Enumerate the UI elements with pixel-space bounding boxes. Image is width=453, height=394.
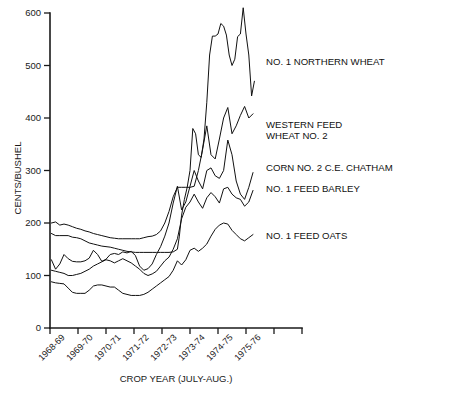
x-axis-tick-labels: 1968-691969-701970-711971-721972-731973-… bbox=[36, 332, 262, 362]
x-tick-label: 1972-73 bbox=[148, 332, 178, 362]
series-label: CORN NO. 2 C.E. CHATHAM bbox=[266, 162, 393, 173]
series-label: WHEAT NO. 2 bbox=[266, 130, 327, 141]
y-tick-label: 500 bbox=[25, 60, 41, 71]
y-tick-label: 600 bbox=[25, 7, 41, 18]
series-label: WESTERN FEED bbox=[266, 119, 342, 130]
x-axis-title: CROP YEAR (JULY-AUG.) bbox=[120, 373, 233, 384]
line-chart: 0100200300400500600 1968-691969-701970-7… bbox=[0, 0, 453, 394]
series-label: NO. 1 NORTHERN WHEAT bbox=[266, 56, 385, 67]
y-tick-label: 0 bbox=[36, 322, 41, 333]
x-tick-label: 1971-72 bbox=[120, 332, 150, 362]
y-tick-label: 200 bbox=[25, 217, 41, 228]
y-tick-label: 300 bbox=[25, 165, 41, 176]
x-tick-label: 1975-76 bbox=[232, 332, 262, 362]
series-line bbox=[51, 187, 253, 275]
x-tick-label: 1973-74 bbox=[176, 332, 206, 362]
x-tick-label: 1974-75 bbox=[204, 332, 234, 362]
y-axis-title: CENTS/BUSHEL bbox=[12, 142, 23, 215]
series-line bbox=[51, 223, 253, 295]
series-lines-group bbox=[51, 8, 254, 296]
x-tick-label: 1970-71 bbox=[92, 332, 122, 362]
x-tick-label: 1968-69 bbox=[36, 332, 66, 362]
series-labels-group: NO. 1 NORTHERN WHEATWESTERN FEEDWHEAT NO… bbox=[266, 56, 393, 240]
y-tick-label: 400 bbox=[25, 112, 41, 123]
y-axis-tick-labels: 0100200300400500600 bbox=[25, 7, 41, 333]
series-label: NO. 1 FEED OATS bbox=[266, 230, 347, 241]
chart-container: 0100200300400500600 1968-691969-701970-7… bbox=[0, 0, 453, 394]
series-label: NO. 1 FEED BARLEY bbox=[266, 183, 360, 194]
y-axis-ticks bbox=[44, 13, 50, 328]
x-tick-label: 1969-70 bbox=[64, 332, 94, 362]
y-tick-label: 100 bbox=[25, 270, 41, 281]
series-line bbox=[51, 8, 254, 253]
y-axis-group: 0100200300400500600 bbox=[25, 7, 50, 333]
series-line bbox=[51, 140, 253, 270]
x-axis-group: 1968-691969-701970-711971-721972-731973-… bbox=[36, 328, 302, 363]
